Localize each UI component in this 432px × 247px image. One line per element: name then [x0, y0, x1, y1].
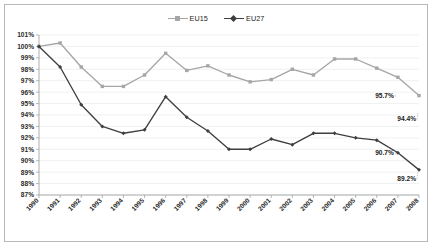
x-axis-ticks-group: 1990199119921993199419951996199719981999… — [24, 195, 420, 212]
data-point-marker — [185, 69, 188, 72]
data-series-group — [37, 41, 421, 172]
data-point-marker — [143, 73, 146, 76]
data-point-marker — [121, 131, 125, 135]
data-point-marker — [80, 65, 83, 68]
data-point-marker — [248, 80, 251, 83]
annotation-leader-line — [417, 111, 418, 119]
data-labels-group: 95.7%94.4%90.7%89.2% — [375, 92, 418, 182]
y-tick-label: 99% — [21, 54, 34, 61]
series-line-eu27 — [39, 46, 419, 169]
x-tick-label: 1991 — [45, 197, 61, 213]
data-point-marker — [375, 66, 378, 69]
x-tick-label: 1999 — [214, 197, 230, 213]
x-tick-label: 2005 — [341, 197, 357, 213]
data-point-marker — [164, 52, 167, 55]
data-point-marker — [396, 76, 399, 79]
data-label-eu15-2007: 95.7% — [375, 92, 394, 99]
x-tick-label: 2000 — [235, 197, 251, 213]
x-tick-label: 1996 — [151, 197, 167, 213]
data-point-marker — [101, 85, 104, 88]
data-point-marker — [206, 64, 209, 67]
data-point-marker — [58, 41, 61, 44]
x-tick-label: 2006 — [362, 197, 378, 213]
data-point-marker — [312, 73, 315, 76]
data-point-marker — [354, 57, 357, 60]
y-tick-label: 92% — [21, 134, 34, 141]
y-axis-ticks-group: 87%88%89%90%91%92%93%94%95%96%97%98%99%1… — [17, 31, 39, 198]
x-tick-label: 1995 — [130, 197, 146, 213]
data-point-marker — [333, 131, 337, 135]
x-tick-label: 2001 — [257, 197, 273, 213]
x-tick-label: 2003 — [299, 197, 315, 213]
gridlines-group — [39, 35, 419, 195]
data-label-eu27-2007: 90.7% — [375, 149, 394, 156]
y-tick-label: 88% — [21, 180, 34, 187]
x-tick-label: 1998 — [193, 197, 209, 213]
data-point-marker — [333, 57, 336, 60]
y-tick-label: 97% — [21, 77, 34, 84]
data-point-marker — [291, 68, 294, 71]
y-tick-label: 90% — [21, 157, 34, 164]
x-tick-label: 1997 — [172, 197, 188, 213]
annotation-leader-line — [395, 96, 397, 97]
y-tick-label: 100% — [17, 43, 34, 50]
y-tick-label: 91% — [21, 146, 34, 153]
x-tick-label: 2008 — [404, 197, 420, 213]
data-point-marker — [227, 73, 230, 76]
x-tick-label: 1992 — [67, 197, 83, 213]
data-point-marker — [270, 78, 273, 81]
y-tick-label: 89% — [21, 169, 34, 176]
y-tick-label: 98% — [21, 66, 34, 73]
data-point-marker — [122, 85, 125, 88]
x-tick-label: 1994 — [109, 197, 125, 213]
plot-area-wrapper: 87%88%89%90%91%92%93%94%95%96%97%98%99%1… — [5, 5, 429, 243]
y-tick-label: 96% — [21, 89, 34, 96]
x-tick-label: 1990 — [24, 197, 40, 213]
data-point-marker — [354, 136, 358, 140]
x-tick-label: 2004 — [320, 197, 336, 213]
data-label-eu27-2008: 89.2% — [397, 175, 416, 182]
y-tick-label: 101% — [17, 31, 34, 38]
y-tick-label: 93% — [21, 123, 34, 130]
data-label-eu15-2008: 94.4% — [397, 115, 416, 122]
line-chart-svg: 87%88%89%90%91%92%93%94%95%96%97%98%99%1… — [5, 5, 429, 243]
data-point-marker — [417, 94, 420, 97]
y-tick-label: 87% — [21, 191, 34, 198]
y-tick-label: 95% — [21, 100, 34, 107]
y-tick-label: 94% — [21, 111, 34, 118]
x-tick-label: 2002 — [278, 197, 294, 213]
chart-container: EU15 EU27 87%88%89%90%91%92%93%94%95%96%… — [4, 4, 428, 242]
x-tick-label: 2007 — [383, 197, 399, 213]
x-tick-label: 1993 — [88, 197, 104, 213]
